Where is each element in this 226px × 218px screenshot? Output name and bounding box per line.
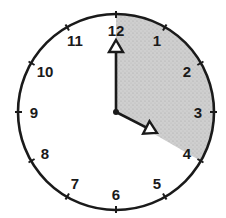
hour-number-1: 1 xyxy=(153,32,161,49)
hour-number-2: 2 xyxy=(183,63,191,80)
hour-number-12: 12 xyxy=(108,22,125,39)
hour-number-9: 9 xyxy=(30,104,38,121)
center-pivot xyxy=(113,109,119,115)
shaded-sector xyxy=(116,15,213,161)
hour-number-7: 7 xyxy=(71,175,79,192)
hour-number-5: 5 xyxy=(153,175,161,192)
hour-number-8: 8 xyxy=(41,145,49,162)
hour-number-3: 3 xyxy=(194,104,202,121)
hour-number-6: 6 xyxy=(112,186,120,203)
hour-number-4: 4 xyxy=(183,145,192,162)
hour-number-10: 10 xyxy=(37,63,54,80)
hour-number-11: 11 xyxy=(67,32,83,49)
clock-diagram: 121234567891011 xyxy=(0,0,226,218)
